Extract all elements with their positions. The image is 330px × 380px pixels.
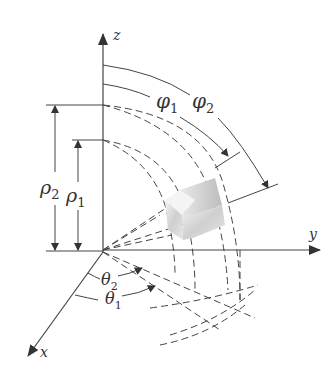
y-axis-label: y [308,226,318,242]
phi1-label: φ1 [156,89,178,116]
diagram-svg: z y x ρ2 ρ1 φ1 φ2 [0,0,330,380]
phi-arcs [103,65,278,203]
rho-dimension-lines [46,105,103,251]
rho2-label: ρ2 [39,176,59,202]
x-axis-label: x [40,344,48,360]
x-axis [28,252,103,356]
z-axis-label: z [112,27,121,43]
phi2-label: φ2 [192,89,214,116]
rho1-label: ρ1 [65,184,85,210]
volume-element [165,178,225,240]
spherical-coordinates-diagram: z y x ρ2 ρ1 φ1 φ2 [0,0,330,380]
theta1-label: θ1 [105,289,122,312]
